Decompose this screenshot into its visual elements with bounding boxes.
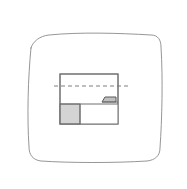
step-notch-detail <box>102 97 116 102</box>
diagram-svg <box>0 0 187 189</box>
sketch-canvas: sketch frame section view rectangle shad… <box>0 0 187 189</box>
shaded-block <box>60 104 80 124</box>
